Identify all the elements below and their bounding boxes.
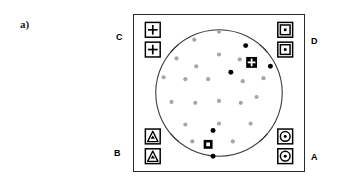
gray-dot [217, 30, 221, 34]
gray-dot [239, 101, 243, 105]
fiducial-c-icon [145, 22, 160, 37]
fiducial-a-icon [278, 129, 293, 144]
gray-dot [261, 76, 265, 80]
gray-dot [217, 122, 221, 126]
gray-dot [190, 139, 194, 143]
gray-dot [162, 75, 166, 79]
black-dot [243, 43, 248, 48]
corner-label-d: D [311, 37, 318, 46]
panel-label: a) [20, 18, 29, 30]
fiducial-layer [145, 22, 292, 163]
dot-square-marker [204, 140, 213, 149]
gray-dot [183, 77, 187, 81]
fiducial-c-icon [145, 42, 160, 57]
fiducial-d-icon [278, 22, 293, 37]
black-dot [211, 128, 216, 133]
gray-dot [249, 122, 253, 126]
dot-square-marker-center [206, 142, 210, 146]
gray-dot [254, 95, 258, 99]
black-dot [268, 64, 273, 69]
fiducial-d-icon [278, 42, 293, 57]
inner-circle-core [284, 135, 287, 138]
black-dot [228, 70, 233, 75]
gray-dot [217, 52, 221, 56]
corner-label-c: C [116, 33, 123, 42]
fiducial-b-icon [145, 129, 160, 144]
gray-dot [231, 139, 235, 143]
gray-dot [241, 79, 245, 83]
arc-right-arc [260, 45, 283, 142]
gray-dot [183, 123, 187, 127]
black-dot [211, 154, 216, 159]
figure-root: a) C D B A [0, 0, 339, 182]
crosshair-horizontal [148, 49, 158, 51]
corner-label-a: A [311, 153, 318, 162]
gray-dot [174, 56, 178, 60]
gray-dot [169, 100, 173, 104]
plot-frame [133, 14, 305, 172]
grid-square-marker [246, 57, 257, 68]
gray-dot [192, 38, 196, 42]
fiducial-b-icon [145, 149, 160, 164]
arc-layer [156, 30, 283, 156]
gray-dot [206, 77, 210, 81]
inner-square-core [284, 48, 287, 51]
gray-dot [238, 57, 242, 61]
dot-layer [162, 30, 273, 159]
gray-dot [193, 101, 197, 105]
corner-label-b: B [114, 149, 121, 158]
fiducial-a-icon [278, 149, 293, 164]
inner-square-core [284, 28, 287, 31]
crosshair-horizontal [148, 29, 158, 31]
diagram-canvas [134, 15, 304, 171]
gray-dot [194, 64, 198, 68]
arc-bottom-arc [171, 134, 268, 157]
gray-dot [217, 99, 221, 103]
grid-square-marker-h-bar [248, 62, 256, 64]
inner-circle-core [284, 155, 287, 158]
